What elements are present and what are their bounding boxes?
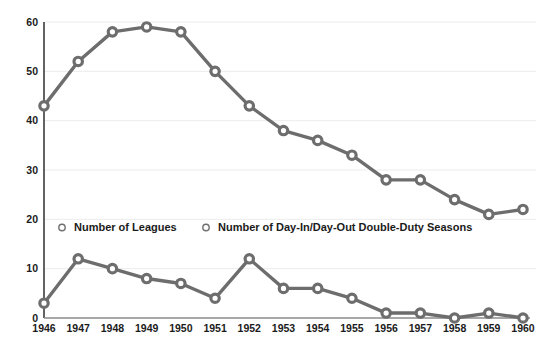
data-point-marker[interactable]: [40, 102, 48, 110]
x-axis-tick-label: 1946: [32, 322, 56, 334]
data-point-marker[interactable]: [177, 28, 185, 36]
x-axis-tick-label: 1950: [169, 322, 193, 334]
x-axis-tick-label: 1960: [511, 322, 535, 334]
y-axis-tick-label: 60: [26, 16, 38, 28]
data-point-marker[interactable]: [348, 151, 356, 159]
line-chart-svg: 0102030405060 19461947194819491950195119…: [0, 0, 540, 348]
data-point-marker[interactable]: [485, 309, 493, 317]
y-axis-tick-label: 30: [26, 164, 38, 176]
data-point-marker[interactable]: [348, 294, 356, 302]
x-axis-tick-label: 1947: [67, 322, 91, 334]
x-axis-tick-label: 1954: [306, 322, 330, 334]
x-axis-tick-label: 1951: [203, 322, 227, 334]
y-axis-tick-label: 10: [26, 262, 38, 274]
x-axis-tick-label: 1959: [477, 322, 501, 334]
data-point-marker[interactable]: [314, 136, 322, 144]
data-point-marker[interactable]: [279, 284, 287, 292]
data-point-marker[interactable]: [108, 28, 116, 36]
data-point-marker[interactable]: [245, 102, 253, 110]
series-double-duty-seasons: [40, 255, 527, 323]
data-point-marker[interactable]: [519, 314, 527, 322]
data-point-marker[interactable]: [40, 299, 48, 307]
y-axis-tick-label: 20: [26, 213, 38, 225]
x-axis-tick-label: 1948: [101, 322, 125, 334]
data-point-marker[interactable]: [177, 279, 185, 287]
y-axis-tick-label: 50: [26, 65, 38, 77]
x-axis-tick-label: 1952: [238, 322, 262, 334]
data-point-marker[interactable]: [485, 210, 493, 218]
data-point-marker[interactable]: [382, 176, 390, 184]
data-point-marker[interactable]: [108, 264, 116, 272]
x-axis-tick-label: 1953: [272, 322, 296, 334]
y-axis-tick-label: 40: [26, 114, 38, 126]
data-point-marker[interactable]: [74, 255, 82, 263]
data-point-marker[interactable]: [416, 176, 424, 184]
data-point-marker[interactable]: [519, 205, 527, 213]
x-axis-tick-label: 1957: [409, 322, 433, 334]
x-axis-tick-label: 1955: [340, 322, 364, 334]
y-axis-tick-labels: 0102030405060: [26, 16, 38, 324]
legend-label[interactable]: Number of Leagues: [74, 221, 177, 233]
data-point-marker[interactable]: [245, 255, 253, 263]
x-axis-tick-label: 1956: [374, 322, 398, 334]
data-point-marker[interactable]: [211, 67, 219, 75]
data-point-marker[interactable]: [382, 309, 390, 317]
data-point-marker[interactable]: [416, 309, 424, 317]
data-point-marker[interactable]: [74, 57, 82, 65]
legend-marker-icon: [59, 224, 65, 230]
legend-label[interactable]: Number of Day-In/Day-Out Double-Duty Sea…: [218, 221, 472, 233]
chart-legend: Number of LeaguesNumber of Day-In/Day-Ou…: [59, 221, 472, 233]
data-point-marker[interactable]: [279, 126, 287, 134]
legend-marker-icon: [203, 224, 209, 230]
data-point-marker[interactable]: [211, 294, 219, 302]
data-point-marker[interactable]: [314, 284, 322, 292]
data-point-marker[interactable]: [142, 23, 150, 31]
data-point-marker[interactable]: [450, 195, 458, 203]
x-axis-tick-label: 1958: [443, 322, 467, 334]
data-point-marker[interactable]: [450, 314, 458, 322]
x-axis-tick-label: 1949: [135, 322, 159, 334]
chart-container: · · · · · · · 0102030405060 194619471948…: [0, 0, 540, 348]
x-axis-tick-labels: 1946194719481949195019511952195319541955…: [32, 322, 535, 334]
data-point-marker[interactable]: [142, 274, 150, 282]
